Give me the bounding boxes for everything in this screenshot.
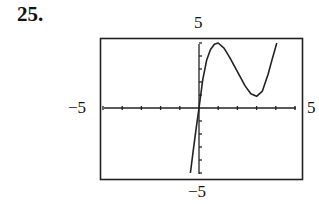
graph-window [0,0,319,204]
